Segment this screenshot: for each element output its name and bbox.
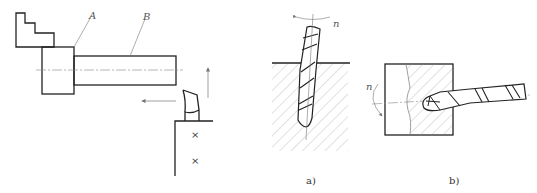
- caption-b: b): [449, 175, 459, 186]
- chuck-body: [42, 47, 74, 94]
- label-a: A: [88, 10, 96, 21]
- caption-a: a): [306, 175, 316, 186]
- tool-post-mark-1: ×: [191, 129, 199, 140]
- figure-a-vertical-drilling: n a): [272, 14, 350, 186]
- figure-b-horizontal-drilling: n b): [366, 64, 530, 186]
- label-b: B: [142, 11, 150, 22]
- rotation-label-a: n: [333, 18, 339, 29]
- rotation-arrow-b: [373, 84, 382, 116]
- chuck-jaw: [16, 13, 54, 47]
- cutting-tool: [183, 90, 199, 121]
- tool-post-mark-2: ×: [191, 155, 199, 166]
- workpiece-shaft: [74, 56, 176, 85]
- lathe-turning-figure: A B × ×: [16, 10, 213, 176]
- diagram-canvas: A B × × n a): [0, 0, 537, 193]
- leader-b: [130, 19, 145, 56]
- rotation-label-b: n: [366, 81, 372, 92]
